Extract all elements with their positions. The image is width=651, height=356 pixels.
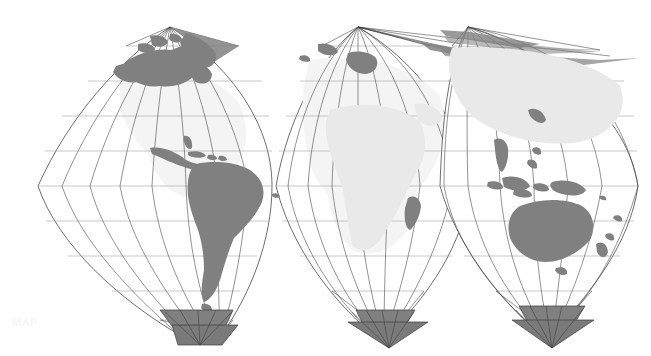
map-canvas: MAP bbox=[0, 0, 651, 356]
land-scandinavia bbox=[318, 43, 338, 55]
world-map-graphic bbox=[0, 0, 651, 356]
lobe-africa-polar-point bbox=[348, 322, 428, 348]
lobe-americas bbox=[38, 27, 272, 345]
watermark: MAP bbox=[12, 316, 74, 332]
lobe-asia-australia bbox=[440, 27, 638, 348]
land-iceland bbox=[299, 55, 310, 61]
